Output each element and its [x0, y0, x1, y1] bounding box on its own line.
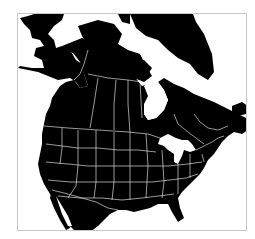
- north-america-map: [18, 14, 247, 231]
- map-frame: [17, 13, 247, 231]
